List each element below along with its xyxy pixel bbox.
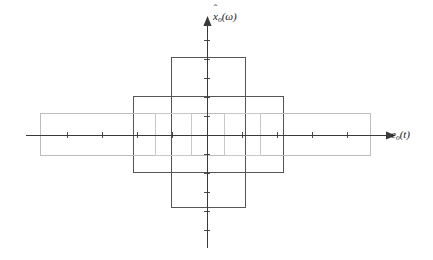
- figure-root: ̂xo(ω) eo(t): [0, 0, 433, 260]
- axis-layer: [26, 16, 396, 248]
- small-square-left: [156, 114, 192, 156]
- y-axis-label-symbol: ̂x: [213, 10, 218, 22]
- x-axis-label-argument: (t): [400, 128, 410, 140]
- x-axis-label: eo(t): [391, 128, 410, 142]
- tall-narrow-rect: [172, 58, 246, 208]
- y-axis-label-argument: (ω): [222, 10, 237, 22]
- y-axis-arrow-icon: [203, 16, 211, 26]
- rectangle-layer: [41, 58, 371, 208]
- y-axis-label: ̂xo(ω): [213, 10, 237, 24]
- plot-canvas: [0, 0, 433, 260]
- wide-flat-rect: [41, 114, 371, 156]
